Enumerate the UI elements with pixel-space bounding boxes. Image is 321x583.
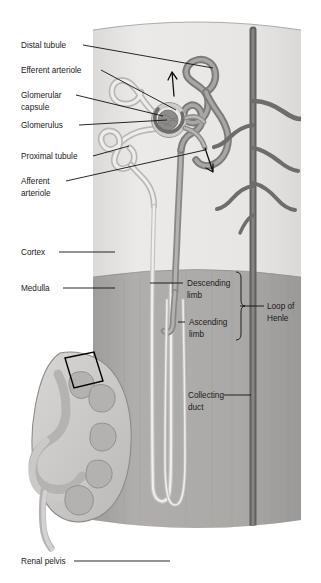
figure-root: Distal tubule Efferent arteriole Glomeru… (0, 0, 321, 583)
label-renal-pelvis: Renal pelvis (21, 557, 66, 566)
glomerular-capsule (152, 103, 187, 138)
label-loop-of-henle-line1: Loop of (267, 302, 295, 311)
label-efferent-arteriole: Efferent arteriole (21, 66, 82, 75)
label-ascending-limb-line1: Ascending (189, 318, 228, 327)
label-afferent-arteriole-line2: arteriole (21, 189, 51, 198)
label-glomerular-capsule-line2: capsule (21, 103, 50, 112)
label-collecting-duct-line2: duct (188, 403, 204, 412)
label-afferent-arteriole-line1: Afferent (21, 177, 50, 186)
label-descending-limb-line1: Descending (187, 279, 231, 288)
label-descending-limb-line2: limb (187, 291, 202, 300)
label-cortex: Cortex (21, 248, 45, 257)
label-glomerulus: Glomerulus (21, 121, 63, 130)
label-distal-tubule: Distal tubule (21, 41, 67, 50)
label-proximal-tubule: Proximal tubule (21, 152, 78, 161)
label-collecting-duct-line1: Collecting (188, 391, 224, 400)
label-glomerular-capsule-line1: Glomerular (21, 91, 62, 100)
nephron-diagram: Distal tubule Efferent arteriole Glomeru… (0, 0, 321, 583)
label-loop-of-henle-line2: Henle (267, 314, 289, 323)
label-ascending-limb-line2: limb (189, 330, 204, 339)
label-medulla: Medulla (21, 284, 50, 293)
